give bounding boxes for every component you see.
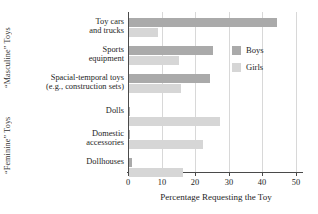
category-label-line: Dollhouses: [16, 157, 124, 166]
category-label-toy-cars: Toy cars and trucks: [16, 17, 124, 36]
category-label-line: and trucks: [16, 26, 124, 35]
x-tick-label-40: 40: [258, 178, 266, 187]
bar-girls-3: [129, 117, 220, 126]
gridline-50: [296, 12, 297, 172]
x-tick-label-0: 0: [126, 178, 130, 187]
bar-boys-3: [129, 107, 130, 116]
legend-swatch-girls: [232, 63, 241, 72]
gridline-40: [262, 12, 263, 172]
category-label-line: Dolls: [16, 106, 124, 115]
category-label-line: Sports: [16, 45, 124, 54]
category-label-line: accessories: [16, 138, 124, 147]
legend-label-girls: Girls: [246, 62, 263, 72]
x-axis-title: Percentage Requesting the Toy: [128, 192, 304, 202]
bar-boys-0: [129, 18, 277, 27]
bar-boys-1: [129, 46, 213, 55]
plot-area: 0 10 20 30 40 50: [128, 12, 296, 172]
x-tick-label-50: 50: [292, 178, 300, 187]
gridline-30: [229, 12, 230, 172]
category-label-domestic-accessories: Domestic accessories: [16, 129, 124, 148]
category-label-line: (e.g., construction sets): [16, 82, 124, 91]
group-axis-label-masculine: “Masculine” Toys: [0, 12, 14, 104]
x-tick-50: [296, 172, 297, 176]
bar-girls-1: [129, 56, 179, 65]
category-label-spacial-temporal-toys: Spacial-temporal toys (e.g., constructio…: [16, 73, 124, 92]
category-label-dollhouses: Dollhouses: [16, 157, 124, 166]
x-tick-label-30: 30: [225, 178, 233, 187]
bar-girls-2: [129, 84, 181, 93]
bar-boys-2: [129, 74, 210, 83]
bar-girls-4: [129, 140, 203, 149]
category-label-line: equipment: [16, 54, 124, 63]
category-label-line: Domestic: [16, 129, 124, 138]
x-tick-20: [195, 172, 196, 176]
bar-boys-5: [129, 158, 132, 167]
category-label-line: Spacial-temporal toys: [16, 73, 124, 82]
x-tick-label-20: 20: [191, 178, 199, 187]
legend-swatch-boys: [232, 46, 241, 55]
bar-girls-0: [129, 28, 158, 37]
legend-label-boys: Boys: [246, 45, 264, 55]
bar-girls-5: [129, 168, 183, 177]
x-tick-30: [229, 172, 230, 176]
x-tick-label-10: 10: [158, 178, 166, 187]
bar-boys-4: [129, 130, 130, 139]
category-label-dolls: Dolls: [16, 106, 124, 115]
x-tick-40: [262, 172, 263, 176]
legend: Boys Girls: [232, 45, 264, 79]
legend-item-girls: Girls: [232, 62, 264, 72]
category-axis-labels: Toy cars and trucks Sports equipment Spa…: [16, 12, 126, 172]
bar-chart: “Masculine” Toys “Feminine” Toys Toy car…: [0, 0, 318, 214]
legend-item-boys: Boys: [232, 45, 264, 55]
group-axis-label-feminine: “Feminine” Toys: [0, 104, 14, 186]
category-label-sports-equipment: Sports equipment: [16, 45, 124, 64]
category-label-line: Toy cars: [16, 17, 124, 26]
